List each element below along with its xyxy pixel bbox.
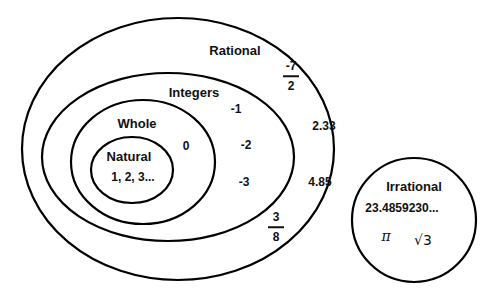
fraction-bar [268,226,284,228]
irrational-set-circle [352,158,476,282]
rational-member-2-33: 2.33 [312,119,335,133]
integer-member-neg1: -1 [231,102,242,116]
numerator: 3 [273,210,280,224]
sqrt-3-symbol: √3 [414,232,432,248]
numerator: -7 [286,59,297,73]
irrational-member-decimal: 23.4859230... [365,201,438,215]
rational-label: Rational [209,43,260,58]
integers-label: Integers [169,85,220,100]
fraction-bar [283,75,299,77]
irrational-label: Irrational [386,179,442,194]
natural-label: Natural [107,149,152,164]
natural-members: 1, 2, 3... [111,170,154,184]
integer-member-neg3: -3 [239,175,250,189]
whole-member-0: 0 [183,139,190,153]
rational-member-4-85: 4.85 [308,175,331,189]
denominator: 2 [288,79,295,93]
pi-symbol: π [381,228,390,244]
fraction-neg7-over-2: -7 2 [283,59,299,93]
denominator: 8 [273,230,280,244]
integer-member-neg2: -2 [241,138,252,152]
whole-label: Whole [118,116,157,131]
fraction-3-over-8: 3 8 [268,210,284,244]
